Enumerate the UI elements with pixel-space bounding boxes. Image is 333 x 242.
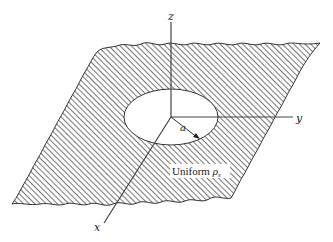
x-axis-label: x	[94, 221, 101, 234]
rho-subscript: s	[218, 171, 221, 179]
y-axis-label: y	[295, 112, 303, 125]
charged-plane-diagram: z y x a Uniform ρs	[0, 0, 333, 242]
z-axis-label: z	[167, 10, 174, 23]
uniform-text: Uniform	[172, 165, 213, 177]
diagram-canvas: z y x a Uniform ρs	[0, 0, 333, 242]
radius-label: a	[180, 122, 186, 133]
uniform-charge-label: Uniform ρs	[172, 165, 221, 179]
